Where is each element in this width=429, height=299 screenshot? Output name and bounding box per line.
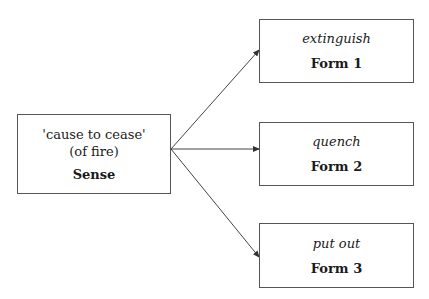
form-3-label: Form 3 (311, 260, 362, 277)
sense-gloss-line1: 'cause to cease' (42, 126, 145, 143)
form-1-word: extinguish (302, 30, 371, 47)
arrow-to-form-1 (171, 50, 259, 149)
sense-box: 'cause to cease' (of fire) Sense (17, 114, 171, 194)
form-2-label: Form 2 (311, 158, 362, 175)
form-2-box: quench Form 2 (259, 122, 414, 186)
sense-label: Sense (73, 166, 116, 183)
form-3-box: put out Form 3 (259, 223, 414, 288)
arrow-to-form-3 (171, 149, 259, 257)
form-2-word: quench (312, 133, 360, 150)
sense-gloss-line2: (of fire) (69, 143, 119, 160)
form-1-box: extinguish Form 1 (259, 19, 414, 83)
form-3-word: put out (313, 235, 360, 252)
form-1-label: Form 1 (311, 55, 362, 72)
